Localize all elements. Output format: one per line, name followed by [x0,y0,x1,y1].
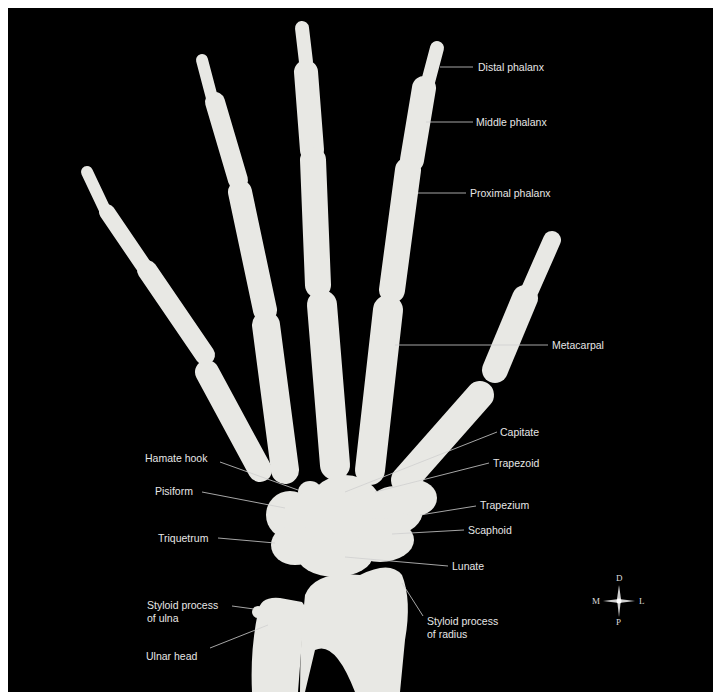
label-styloid-radius-line2: of radius [427,628,498,641]
orientation-compass: D P M L [589,573,649,629]
compass-medial: M [592,596,600,606]
carpal-bones [266,475,437,577]
forearm-bones [252,568,408,693]
label-metacarpal: Metacarpal [552,339,604,352]
thumb-bones [405,240,552,480]
index-finger-bones [370,48,437,470]
compass-lateral: L [639,596,645,606]
label-scaphoid: Scaphoid [468,524,512,537]
compass-distal: D [616,573,623,583]
middle-finger-bones [302,28,335,465]
label-styloid-ulna-line2: of ulna [147,612,218,625]
compass-proximal: P [616,617,621,627]
label-ulnar-head: Ulnar head [146,650,197,663]
label-styloid-ulna-line1: Styloid process [147,599,218,612]
label-hamate-hook: Hamate hook [145,452,207,465]
label-styloid-process-radius: Styloid process of radius [427,615,498,641]
label-trapezoid: Trapezoid [493,457,539,470]
label-styloid-process-ulna: Styloid process of ulna [147,599,218,625]
label-capitate: Capitate [500,426,539,439]
label-middle-phalanx: Middle phalanx [476,116,547,129]
label-pisiform: Pisiform [155,485,193,498]
label-distal-phalanx: Distal phalanx [478,61,544,74]
label-lunate: Lunate [452,560,484,573]
label-triquetrum: Triquetrum [158,532,208,545]
label-styloid-radius-line1: Styloid process [427,615,498,628]
label-trapezium: Trapezium [480,499,529,512]
label-proximal-phalanx: Proximal phalanx [470,187,551,200]
